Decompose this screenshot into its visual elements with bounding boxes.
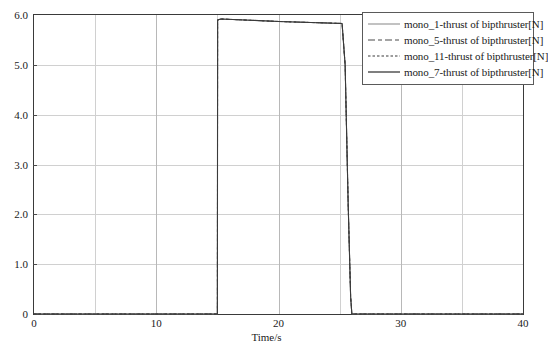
x-axis-tick-label: 20 bbox=[264, 318, 294, 329]
x-axis-tick-label: 0 bbox=[19, 318, 49, 329]
x-axis-tick-label: 30 bbox=[386, 318, 416, 329]
x-axis-tick-label: 40 bbox=[508, 318, 538, 329]
x-axis-title-text: Time/s bbox=[251, 331, 281, 343]
legend-item[interactable]: mono_11-thrust of bipthruster[N] bbox=[367, 48, 529, 64]
x-axis-title: Time/s bbox=[0, 331, 541, 343]
legend-line-icon-mono-5 bbox=[367, 34, 401, 46]
legend-item[interactable]: mono_5-thrust of bipthruster[N] bbox=[367, 32, 529, 48]
legend-item[interactable]: mono_1-thrust of bipthruster[N] bbox=[367, 16, 529, 32]
y-axis-tick-label: 3.0 bbox=[0, 160, 28, 171]
y-axis-tick-label: 2.0 bbox=[0, 209, 28, 220]
y-axis-tick-label: 1.0 bbox=[0, 259, 28, 270]
legend-label: mono_11-thrust of bipthruster[N] bbox=[401, 50, 548, 62]
y-axis-tick-label: 0 bbox=[0, 309, 28, 320]
y-axis-tick-label: 6.0 bbox=[0, 10, 28, 21]
legend-item[interactable]: mono_7-thrust of bipthruster[N] bbox=[367, 64, 529, 80]
legend-label: mono_5-thrust of bipthruster[N] bbox=[401, 34, 543, 46]
legend-label: mono_7-thrust of bipthruster[N] bbox=[401, 66, 543, 78]
legend-line-icon-mono-7 bbox=[367, 66, 401, 78]
y-axis-tick-label: 4.0 bbox=[0, 110, 28, 121]
x-axis-tick-label: 10 bbox=[141, 318, 171, 329]
y-axis-tick-label: 5.0 bbox=[0, 60, 28, 71]
legend-line-icon-mono-1 bbox=[367, 18, 401, 30]
legend-label: mono_1-thrust of bipthruster[N] bbox=[401, 18, 543, 30]
legend-line-icon-mono-11 bbox=[367, 50, 401, 62]
legend: mono_1-thrust of bipthruster[N] mono_5-t… bbox=[362, 12, 534, 85]
